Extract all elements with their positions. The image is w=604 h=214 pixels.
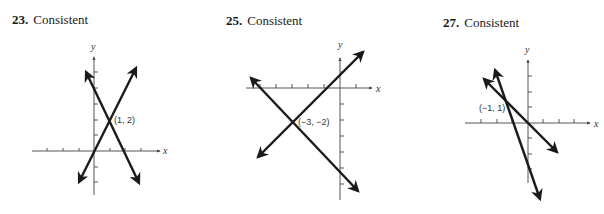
graph-25: x y (−3, −2) [246,39,381,200]
axes [32,57,160,195]
x-axis-label: x [375,83,381,94]
line-falling [251,78,358,191]
y-axis-label: y [90,41,96,52]
graphs-canvas: x y (1, 2) x y (−3, −2) [0,0,604,214]
line-steep [495,70,540,199]
y-axis-label: y [524,44,530,55]
line-rising [79,68,136,182]
intersection-label: (1, 2) [114,115,135,125]
graph-27: x y (−1, 1) [465,44,599,199]
axes [246,58,372,200]
x-axis-label: x [593,118,599,129]
graph-23: x y (1, 2) [32,41,168,195]
y-axis-label: y [337,39,343,50]
intersection-label: (−1, 1) [479,103,505,113]
intersection-label: (−3, −2) [298,117,330,127]
x-axis-label: x [162,145,168,156]
